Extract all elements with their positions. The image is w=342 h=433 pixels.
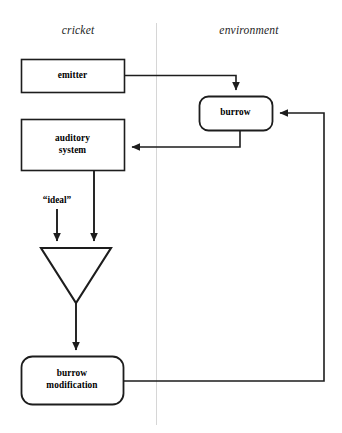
edge-burrow-to-auditory-system (132, 130, 240, 147)
annotation-label-ideal: “ideal” (22, 195, 92, 205)
node-emitter-box (22, 60, 125, 93)
edge-burrow-modification-to-burrow-feedback (123, 113, 324, 381)
diagram-figure: cricket environment emitter auditory sys… (0, 0, 342, 433)
node-comparator-triangle (41, 248, 111, 303)
node-burrow-box (200, 97, 273, 131)
diagram-canvas (0, 0, 342, 433)
partition-label-environment: environment (156, 24, 342, 36)
edge-emitter-to-burrow (124, 76, 236, 91)
partition-label-cricket: cricket (0, 24, 156, 36)
node-burrow-modification-box (22, 357, 124, 405)
node-auditory-system-box (22, 120, 125, 171)
